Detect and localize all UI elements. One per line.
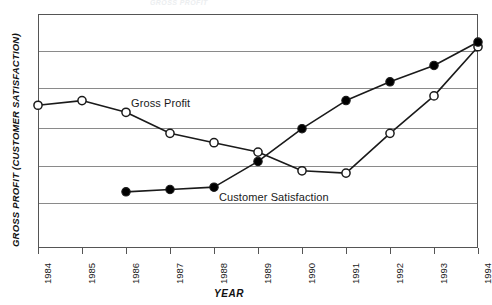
y-axis-title: GROSS PROFIT (CUSTOMER SATISFACTION) xyxy=(10,33,21,247)
series-label-gross-profit: Gross Profit xyxy=(131,97,190,109)
x-tick-label-1988: 1988 xyxy=(218,263,229,284)
x-tick-label-1987: 1987 xyxy=(174,263,185,284)
chart-figure: GROSS PROFIT 198419851986198719881989199… xyxy=(0,0,492,305)
line-chart-canvas xyxy=(0,0,492,305)
x-tick-label-1985: 1985 xyxy=(86,263,97,284)
series-label-customer-satisfaction: Customer Satisfaction xyxy=(219,191,329,203)
x-tick-label-1986: 1986 xyxy=(130,263,141,284)
x-tick-label-1992: 1992 xyxy=(394,263,405,284)
x-tick-label-1984: 1984 xyxy=(42,263,53,284)
faint-cropped-title: GROSS PROFIT xyxy=(150,0,350,6)
x-tick-label-1989: 1989 xyxy=(262,263,273,284)
x-tick-label-1994: 1994 xyxy=(482,263,492,284)
x-tick-label-1990: 1990 xyxy=(306,263,317,284)
x-tick-label-1993: 1993 xyxy=(438,263,449,284)
x-tick-label-1991: 1991 xyxy=(350,263,361,284)
x-axis-ticks xyxy=(39,248,479,254)
x-axis-title: YEAR xyxy=(214,288,244,299)
plot-frame xyxy=(39,15,478,248)
